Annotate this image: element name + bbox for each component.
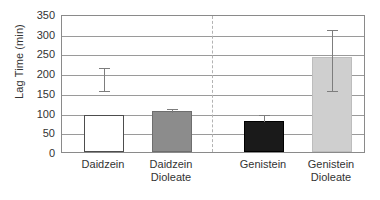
errorcap-upper-daidzein-dioleate — [167, 109, 178, 110]
plot-area — [61, 15, 365, 153]
y-tick-0: 0 — [22, 147, 55, 159]
errorcap-lower-genistein-dioleate — [327, 91, 338, 92]
y-tick-250: 250 — [22, 48, 55, 60]
x-label-genistein-dioleate-line1: Genistein — [291, 158, 371, 171]
y-tick-100: 100 — [22, 108, 55, 120]
gridline-300 — [62, 36, 364, 37]
y-tick-300: 300 — [22, 29, 55, 41]
y-tick-150: 150 — [22, 88, 55, 100]
x-axis-category-labels: Daidzein Daidzein Dioleate Genistein Gen… — [61, 158, 365, 198]
y-tick-200: 200 — [22, 68, 55, 80]
bar-daidzein — [84, 115, 124, 152]
y-tick-350: 350 — [22, 9, 55, 21]
y-tick-50: 50 — [22, 127, 55, 139]
x-label-genistein-dioleate-line2: Dioleate — [291, 171, 371, 184]
errorbar-daidzein — [104, 68, 105, 91]
errorbar-genistein — [264, 115, 265, 123]
x-label-daidzein-dioleate-line1: Daidzein — [131, 158, 211, 171]
gridline-250 — [62, 55, 364, 56]
y-axis-tick-labels: 350 300 250 200 150 100 50 0 — [22, 9, 55, 155]
errorcap-upper-genistein-dioleate — [327, 30, 338, 31]
group-divider-line — [212, 16, 213, 152]
bar-chart: Lag Time (min) 350 300 250 200 150 100 5… — [0, 0, 380, 200]
errorcap-upper-daidzein — [99, 68, 110, 69]
errorbar-genistein-dioleate — [332, 30, 333, 91]
errorcap-lower-daidzein — [99, 91, 110, 92]
x-label-daidzein-dioleate: Daidzein Dioleate — [131, 158, 211, 184]
errorcap-upper-genistein — [259, 115, 270, 116]
x-label-daidzein-dioleate-line2: Dioleate — [131, 171, 211, 184]
bar-genistein — [244, 121, 284, 153]
bar-daidzein-dioleate — [152, 111, 192, 152]
x-label-genistein-dioleate: Genistein Dioleate — [291, 158, 371, 184]
